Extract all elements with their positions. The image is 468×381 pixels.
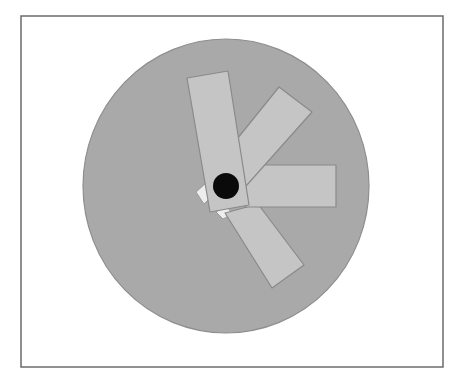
blade-disc-diagram xyxy=(0,0,468,381)
pivot-dot xyxy=(213,173,239,199)
